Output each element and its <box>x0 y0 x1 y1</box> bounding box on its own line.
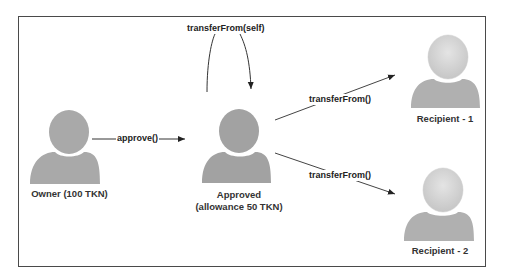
self-transfer-edge-label: transferFrom(self) <box>186 23 266 34</box>
self-loop-arrow-start <box>207 34 215 92</box>
approved-person-icon <box>202 109 271 183</box>
owner-person-icon <box>30 110 100 184</box>
recipient-1-person-icon <box>411 35 480 108</box>
recipient-1-edge-label: transferFrom() <box>308 94 372 105</box>
approved-allowance-label: (allowance 50 TKN) <box>186 201 292 213</box>
diagram-canvas <box>0 0 505 279</box>
approved-label: Approved <box>186 189 292 201</box>
recipient-2-label: Recipient - 2 <box>400 245 480 257</box>
approve-edge-label: approve() <box>116 133 159 144</box>
recipient-2-edge-label: transferFrom() <box>308 170 372 181</box>
recipient-2-person-icon <box>404 168 474 241</box>
self-loop-arrow-end <box>240 34 251 89</box>
owner-label: Owner (100 TKN) <box>22 188 117 200</box>
recipient-1-label: Recipient - 1 <box>405 113 485 125</box>
